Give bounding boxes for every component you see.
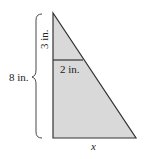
triangle-diagram: 8 in. 3 in. 2 in. x <box>0 0 145 159</box>
large-triangle <box>53 13 136 138</box>
total-height-label: 8 in. <box>9 71 29 83</box>
large-base-label: x <box>90 140 96 152</box>
small-base-label: 2 in. <box>60 63 80 75</box>
small-height-label: 3 in. <box>38 29 50 49</box>
